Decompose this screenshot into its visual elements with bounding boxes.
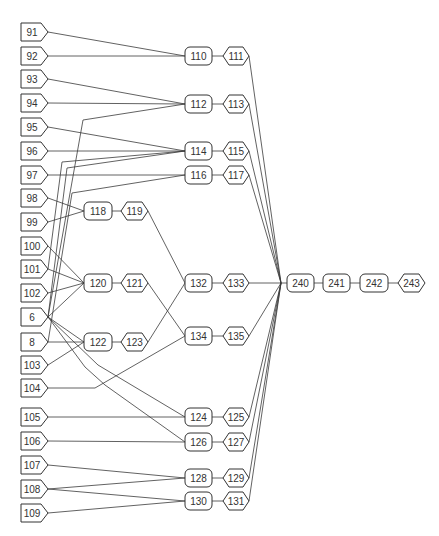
node-97: 97 [21, 166, 48, 184]
node-125: 125 [223, 408, 249, 426]
node-96: 96 [21, 142, 48, 160]
node-133: 133 [223, 274, 249, 292]
node-110: 110 [185, 47, 212, 65]
node-label: 112 [191, 99, 207, 110]
node-127: 127 [223, 433, 249, 451]
node-label: 105 [24, 412, 41, 423]
edge-127-to-J [249, 283, 281, 442]
node-label: 124 [190, 412, 207, 423]
node-117: 117 [223, 166, 249, 184]
node-label: 117 [228, 170, 244, 181]
node-label: 132 [190, 278, 207, 289]
node-126: 126 [185, 433, 212, 451]
edge-98-to-118 [48, 198, 84, 211]
node-115: 115 [223, 142, 249, 160]
node-113: 113 [223, 95, 249, 113]
node-106: 106 [21, 432, 48, 450]
node-label: 94 [26, 98, 38, 109]
edge-123-to-132 [148, 283, 185, 342]
node-label: 103 [24, 360, 41, 371]
node-label: 107 [24, 460, 41, 471]
node-label: 119 [127, 206, 143, 217]
edge-117-to-J [249, 175, 281, 283]
node-label: 110 [191, 51, 207, 62]
edge-129-to-J [249, 283, 281, 478]
edge-108-to-128 [48, 478, 185, 489]
node-131: 131 [223, 492, 249, 510]
node-114: 114 [185, 142, 212, 160]
node-104: 104 [21, 379, 48, 397]
node-99: 99 [21, 213, 48, 231]
node-label: 129 [228, 473, 245, 484]
node-label: 122 [90, 337, 107, 348]
node-label: 120 [90, 278, 107, 289]
node-91: 91 [21, 23, 48, 41]
edge-6-to-124 [48, 317, 185, 417]
node-8: 8 [21, 333, 48, 351]
node-112: 112 [185, 95, 212, 113]
edge-104-to-134 [48, 336, 185, 388]
node-label: 241 [328, 278, 345, 289]
node-label: 6 [29, 312, 35, 323]
edge-109-to-130 [48, 501, 185, 513]
nodes-layer: 9192939495969798991001011026810310410510… [21, 23, 425, 522]
node-label: 98 [26, 193, 38, 204]
node-label: 116 [191, 170, 207, 181]
node-128: 128 [185, 469, 212, 487]
node-label: 96 [26, 146, 38, 157]
edge-6-to-122 [48, 317, 84, 342]
edge-95-to-114 [48, 127, 185, 151]
edge-106-to-126 [48, 441, 185, 442]
edge-131-to-J [249, 283, 281, 501]
edge-108-to-130 [48, 489, 185, 501]
node-6: 6 [21, 308, 48, 326]
node-label: 123 [126, 337, 143, 348]
node-label: 128 [190, 473, 207, 484]
node-100: 100 [21, 237, 48, 255]
node-label: 126 [190, 437, 207, 448]
edge-119-to-132 [148, 211, 185, 283]
node-label: 133 [228, 278, 245, 289]
node-103: 103 [21, 356, 48, 374]
node-242: 242 [360, 274, 388, 292]
edge-93-to-112 [48, 79, 185, 104]
node-129: 129 [223, 469, 249, 487]
edge-125-to-J [249, 283, 281, 417]
node-94: 94 [21, 94, 48, 112]
edge-121-to-134 [148, 283, 185, 336]
edge-103-to-122 [48, 342, 84, 365]
edge-107-to-128 [48, 465, 185, 478]
node-109: 109 [21, 504, 48, 522]
edge-94-to-112 [48, 103, 185, 104]
node-label: 97 [26, 170, 38, 181]
node-label: 93 [26, 74, 38, 85]
node-102: 102 [21, 284, 48, 302]
node-130: 130 [185, 492, 212, 510]
node-119: 119 [121, 202, 148, 220]
node-92: 92 [21, 47, 48, 65]
node-label: 106 [24, 436, 41, 447]
node-label: 99 [26, 217, 38, 228]
node-label: 121 [126, 278, 143, 289]
node-132: 132 [185, 274, 212, 292]
node-124: 124 [185, 408, 212, 426]
node-label: 104 [24, 383, 41, 394]
node-105: 105 [21, 408, 48, 426]
node-label: 242 [366, 278, 383, 289]
node-label: 102 [24, 288, 41, 299]
node-label: 101 [24, 264, 41, 275]
node-label: 95 [26, 122, 38, 133]
edge-135-to-J [249, 283, 281, 336]
node-134: 134 [185, 327, 212, 345]
node-122: 122 [84, 333, 112, 351]
edge-6-to-126 [48, 317, 185, 442]
node-241: 241 [323, 274, 350, 292]
node-135: 135 [223, 327, 249, 345]
node-label: 108 [24, 484, 41, 495]
edge-6-to-114 [48, 151, 185, 317]
node-108: 108 [21, 480, 48, 498]
node-116: 116 [185, 166, 212, 184]
node-123: 123 [121, 333, 148, 351]
node-240: 240 [287, 274, 314, 292]
node-93: 93 [21, 70, 48, 88]
